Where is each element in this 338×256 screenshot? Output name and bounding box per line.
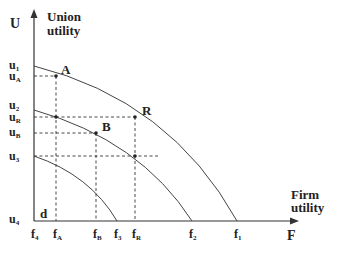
y-tick-u4: u4 <box>9 212 20 227</box>
x-tick-fB: fB <box>93 227 102 242</box>
svg-text:uB: uB <box>9 125 21 140</box>
point-uR-marker <box>54 115 58 119</box>
y-axis-arrow-icon <box>31 9 38 18</box>
point-R-label: R <box>142 103 152 118</box>
svg-text:fA: fA <box>53 227 62 242</box>
point-A-label: A <box>61 62 71 77</box>
y-tick-uB: uB <box>9 125 21 140</box>
svg-text:fR: fR <box>132 227 142 242</box>
x-tick-f1: f1 <box>234 227 242 242</box>
frontier-u1-f1 <box>34 66 237 221</box>
x-tick-fA: fA <box>53 227 62 242</box>
point-B-marker <box>94 131 98 135</box>
x-axis-symbol: F <box>287 228 296 243</box>
svg-text:u4: u4 <box>9 212 20 227</box>
point-fR-u2-marker <box>133 154 137 158</box>
origin-label: d <box>40 206 48 221</box>
svg-text:uR: uR <box>9 110 22 125</box>
y-tick-u3: u3 <box>9 149 20 164</box>
x-tick-f2: f2 <box>189 227 197 242</box>
x-tick-fR: fR <box>132 227 142 242</box>
y-tick-uR: uR <box>9 110 22 125</box>
x-tick-f4: f4 <box>31 227 39 242</box>
x-axis-arrow-icon <box>290 218 299 225</box>
x-axis-title-line2: utility <box>291 200 325 215</box>
x-tick-f3: f3 <box>114 227 122 242</box>
point-A-marker <box>54 74 58 78</box>
svg-text:u3: u3 <box>9 149 20 164</box>
utility-frontier-diagram: A R B U Union utility F Firm utility d u… <box>0 0 338 256</box>
y-axis-symbol: U <box>10 16 20 31</box>
svg-text:fB: fB <box>93 227 102 242</box>
point-R-marker <box>133 115 137 119</box>
svg-text:f4: f4 <box>31 227 39 242</box>
y-axis-title-line2: utility <box>47 23 81 38</box>
svg-text:f1: f1 <box>234 227 242 242</box>
point-B-label: B <box>102 119 111 134</box>
y-axis-title-line1: Union <box>47 9 82 24</box>
svg-text:f2: f2 <box>189 227 197 242</box>
svg-text:f3: f3 <box>114 227 122 242</box>
